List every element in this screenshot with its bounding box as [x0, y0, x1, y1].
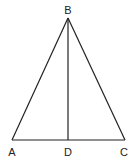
label-b: B — [64, 4, 71, 16]
label-d: D — [64, 146, 72, 158]
label-c: C — [120, 146, 128, 158]
segment-bc — [68, 18, 125, 140]
label-a: A — [8, 146, 16, 158]
segment-ab — [12, 18, 68, 140]
triangle-diagram: B A D C — [0, 0, 138, 162]
